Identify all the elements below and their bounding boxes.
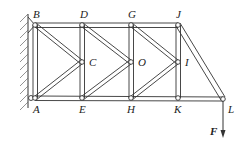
node-label-L: L bbox=[228, 104, 234, 115]
node-label-H: H bbox=[127, 104, 135, 115]
node-label-A: A bbox=[33, 104, 40, 115]
node-label-B: B bbox=[33, 9, 40, 20]
node-label-I: I bbox=[185, 57, 189, 68]
load-label-F: F bbox=[210, 126, 217, 137]
node-label-G: G bbox=[128, 9, 136, 20]
fixed-wall bbox=[20, 14, 28, 110]
node-label-D: D bbox=[80, 9, 88, 20]
node-label-E: E bbox=[79, 104, 86, 115]
truss-diagram bbox=[0, 0, 238, 151]
node-label-J: J bbox=[176, 9, 181, 20]
node-label-O: O bbox=[138, 57, 146, 68]
node-label-C: C bbox=[89, 57, 96, 68]
node-label-K: K bbox=[174, 104, 181, 115]
load-arrow bbox=[221, 101, 226, 138]
